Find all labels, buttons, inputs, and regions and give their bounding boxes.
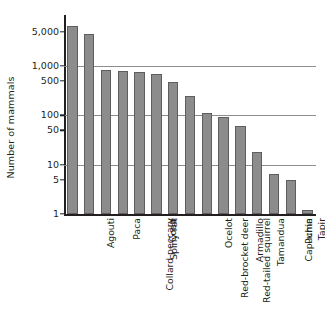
x-tick-label: Tapir	[317, 218, 325, 240]
bar	[252, 152, 263, 214]
x-tick-label: Tamandua	[276, 218, 285, 266]
y-tick-mark	[60, 31, 65, 32]
y-tick-label: 10	[47, 160, 59, 170]
y-tick-label: 50	[47, 125, 59, 135]
bar	[202, 113, 213, 214]
bar	[168, 82, 179, 214]
y-tick-mark	[60, 164, 65, 165]
y-tick-label: 5	[53, 175, 59, 185]
bar	[101, 70, 112, 214]
y-tick-label: 1	[53, 209, 59, 219]
bar	[118, 71, 129, 214]
bar	[269, 174, 280, 214]
y-tick-mark	[60, 130, 65, 131]
gridline	[64, 66, 316, 67]
x-tick-label: Coati	[168, 218, 177, 242]
y-tick-label: 100	[41, 111, 59, 121]
y-axis-title: Number of mammals	[2, 52, 18, 202]
y-tick-mark	[60, 65, 65, 66]
plot-area: 1510501005001,0005,000	[64, 15, 316, 215]
bar	[235, 126, 246, 214]
bar	[302, 210, 313, 214]
x-tick-label: Ocelot	[224, 218, 233, 248]
bar	[218, 117, 229, 215]
x-tick-label: Red-brocket deer	[240, 218, 249, 298]
y-tick-label: 5,000	[32, 27, 59, 37]
y-tick-label: 500	[41, 76, 59, 86]
bar	[185, 96, 196, 214]
y-tick-mark	[60, 213, 65, 214]
y-tick-mark	[60, 179, 65, 180]
x-tick-label: Agouti	[106, 218, 115, 248]
bar	[286, 180, 297, 214]
x-axis-tick-labels: AgoutiCollard peccaryPacaSpiny ratCoatiR…	[64, 216, 316, 316]
x-tick-label: Puma	[304, 218, 313, 244]
y-axis-title-text: Number of mammals	[5, 76, 16, 178]
bar	[67, 26, 78, 214]
y-tick-mark	[60, 80, 65, 81]
x-tick-label: Armadillo	[255, 218, 264, 262]
bar	[84, 34, 95, 214]
bar	[151, 74, 162, 214]
y-tick-label: 1,000	[32, 61, 59, 71]
bar	[134, 72, 145, 214]
x-tick-label: Paca	[132, 218, 141, 240]
y-tick-mark	[60, 115, 65, 116]
bar-chart-figure: Number of mammals 1510501005001,0005,000…	[0, 0, 325, 317]
